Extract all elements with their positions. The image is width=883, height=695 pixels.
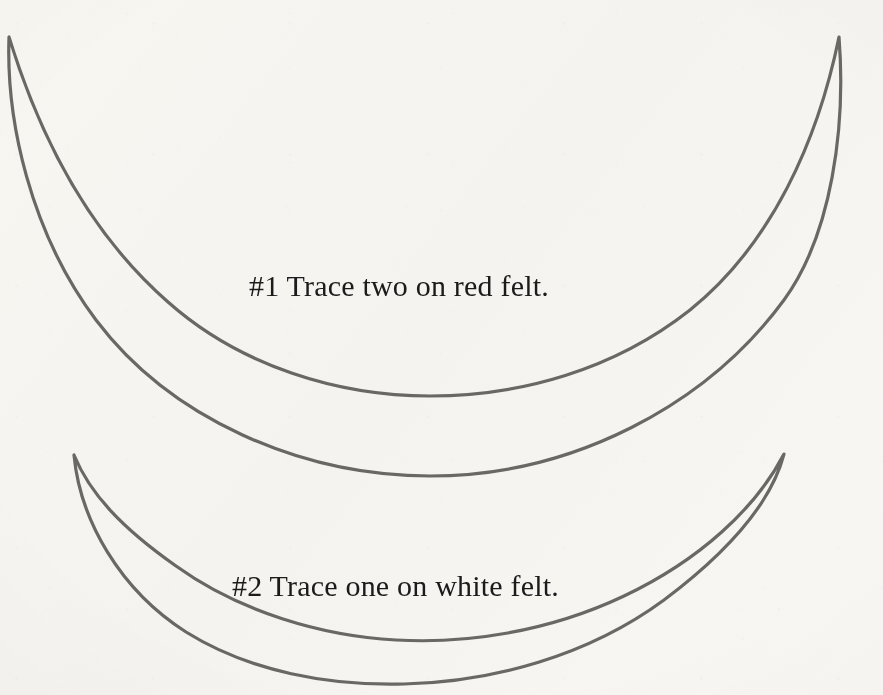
pattern-sheet: #1 Trace two on red felt. #2 Trace one o… [0, 0, 883, 695]
crescent-large-group [9, 37, 841, 476]
instruction-caption-red-felt: #1 Trace two on red felt. [249, 269, 549, 303]
large-crescent-outline [9, 37, 841, 476]
instruction-caption-white-felt: #2 Trace one on white felt. [232, 569, 559, 603]
